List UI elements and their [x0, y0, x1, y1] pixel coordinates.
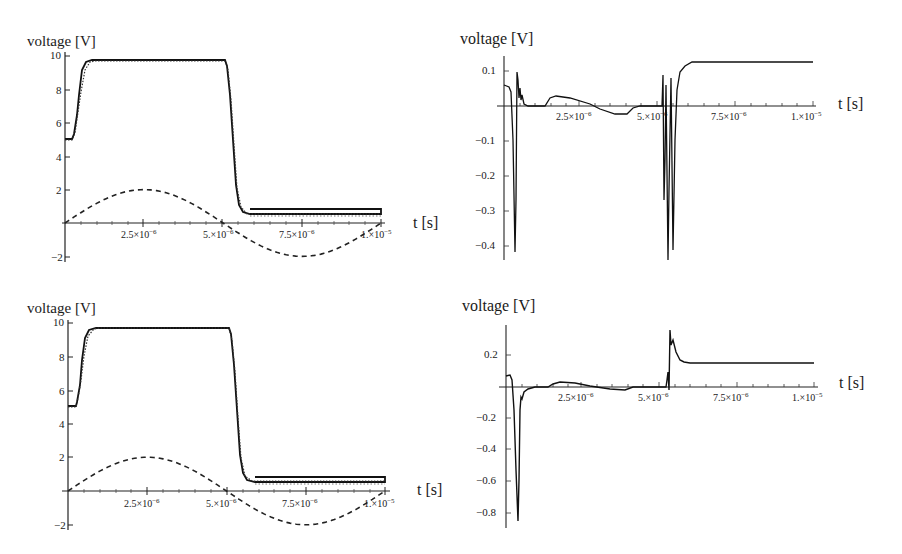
chart-bottom-right: voltage [V] t [s] 0.2 −0.2 −0.4 −0.6 −0.… — [0, 0, 902, 554]
y-tick-label: −0.8 — [476, 506, 496, 518]
y-axis-label: voltage [V] — [462, 297, 535, 315]
x-axis-label: t [s] — [839, 374, 864, 392]
x-tick-label: 7.5×10−6 — [713, 391, 749, 403]
chart-bottom-right-plot — [0, 0, 902, 554]
y-tick-label: −0.4 — [476, 442, 496, 454]
y-tick-label: 0.2 — [484, 348, 498, 360]
y-tick-label: −0.2 — [476, 411, 496, 423]
x-tick-label: 5.×10−6 — [638, 391, 669, 403]
y-tick-label: −0.6 — [476, 474, 496, 486]
x-tick-label: 1.×10−5 — [792, 391, 823, 403]
x-tick-label: 2.5×10−6 — [558, 391, 594, 403]
